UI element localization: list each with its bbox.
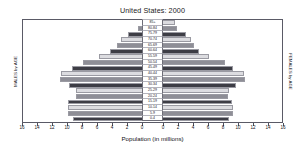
- chart-title: United States: 2000: [0, 6, 305, 15]
- bar-female: [153, 117, 229, 122]
- bar-male: [68, 111, 153, 116]
- bar-male: [72, 66, 152, 71]
- axis-tick-label: 8: [222, 125, 225, 130]
- x-axis-label: Population (in millions): [0, 135, 305, 142]
- bar-female: [153, 83, 236, 88]
- axis-tick-label: 2: [177, 125, 180, 130]
- axis-tick-label: 12: [49, 125, 54, 130]
- bar-female: [153, 94, 228, 99]
- bar-female: [153, 111, 234, 116]
- axis-tick-label: 10: [64, 125, 69, 130]
- bar-male: [69, 83, 152, 88]
- bar-male: [76, 88, 153, 93]
- axis-tick-label: 6: [96, 125, 99, 130]
- bar-male: [61, 71, 152, 76]
- axis-tick-label: 10: [235, 125, 240, 130]
- bar-male: [68, 105, 153, 110]
- x-axis-males: 1614121086420: [22, 123, 142, 135]
- bar-male: [60, 77, 152, 82]
- age-group-label: 0-4: [142, 115, 163, 121]
- population-pyramid-figure: United States: 2000 85+80-8475-7970-7465…: [0, 0, 305, 157]
- y-axis-label-females: FEMALES by AGE: [285, 19, 295, 123]
- bar-female: [153, 77, 245, 82]
- axis-tick-label: 4: [111, 125, 114, 130]
- axis-tick-label: 14: [265, 125, 270, 130]
- axis-tick-label: 4: [192, 125, 195, 130]
- age-group-axis: 85+80-8475-7970-7465-6960-6455-5950-5445…: [142, 19, 163, 123]
- bar-male: [68, 100, 152, 105]
- y-axis-label-males: MALES by AGE: [10, 19, 20, 123]
- bar-female: [153, 71, 244, 76]
- x-axis-females: 0246810121416: [163, 123, 283, 135]
- axis-tick-label: 2: [126, 125, 129, 130]
- bar-female: [153, 66, 234, 71]
- axis-tick-label: 16: [19, 125, 24, 130]
- axis-tick-label: 0: [141, 125, 144, 130]
- bar-female: [153, 60, 225, 65]
- axis-tick-label: 6: [207, 125, 210, 130]
- axis-tick-label: 8: [81, 125, 84, 130]
- bar-female: [153, 88, 230, 93]
- y-axis-label-females-text: FEMALES by AGE: [288, 53, 293, 90]
- axis-tick-label: 12: [250, 125, 255, 130]
- axis-tick-label: 0: [162, 125, 165, 130]
- y-axis-label-males-text: MALES by AGE: [13, 56, 18, 87]
- axis-tick-label: 14: [34, 125, 39, 130]
- axis-tick-label: 16: [280, 125, 285, 130]
- bar-female: [153, 105, 234, 110]
- bar-male: [73, 117, 152, 122]
- bar-female: [153, 100, 232, 105]
